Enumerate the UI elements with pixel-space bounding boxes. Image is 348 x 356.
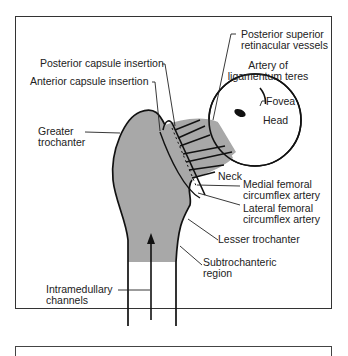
label-line: circumflex artery xyxy=(243,214,320,225)
label-line: ligamentum teres xyxy=(226,71,310,82)
label-line: trochanter xyxy=(38,137,85,148)
label-lateral-femoral: Lateral femoral circumflex artery xyxy=(243,203,320,225)
label-artery-ligamentum-teres: Artery of ligamentum teres xyxy=(226,60,310,82)
label-line: retinacular vessels xyxy=(241,40,328,51)
label-greater-trochanter: Greater trochanter xyxy=(38,126,85,148)
label-neck: Neck xyxy=(218,171,242,182)
label-subtrochanteric: Subtrochanteric region xyxy=(203,257,277,279)
label-line: channels xyxy=(46,295,113,306)
label-line: region xyxy=(203,268,277,279)
label-head: Head xyxy=(263,115,288,126)
label-fovea: Fovea xyxy=(266,96,295,107)
label-posterior-superior-retinacular: Posterior superior retinacular vessels xyxy=(241,29,328,51)
label-line: circumflex artery xyxy=(243,190,320,201)
label-intramedullary: Intramedullary channels xyxy=(46,284,113,306)
label-lesser-trochanter: Lesser trochanter xyxy=(218,234,300,245)
label-posterior-capsule: Posterior capsule insertion xyxy=(40,58,164,69)
label-anterior-capsule: Anterior capsule insertion xyxy=(30,76,148,87)
label-medial-femoral: Medial femoral circumflex artery xyxy=(243,179,320,201)
